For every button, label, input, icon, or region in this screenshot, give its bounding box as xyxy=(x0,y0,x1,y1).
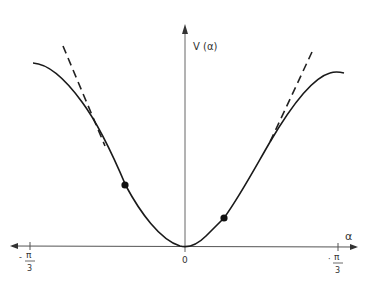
x-axis-right-arrow-icon xyxy=(350,244,358,250)
svg-text:·: · xyxy=(328,255,331,264)
origin-label: 0 xyxy=(182,255,188,265)
marker-point-left xyxy=(121,181,128,188)
svg-text:3: 3 xyxy=(335,266,340,275)
marker-point-right xyxy=(220,214,227,221)
dashed-line-left xyxy=(63,46,105,146)
x-axis-left-arrow-icon xyxy=(10,243,18,249)
svg-text:π: π xyxy=(334,252,340,262)
y-axis xyxy=(182,24,188,252)
y-axis-label: V (α) xyxy=(193,41,218,52)
potential-curve xyxy=(33,63,344,247)
y-axis-arrow-icon xyxy=(182,24,188,34)
svg-text:π: π xyxy=(26,250,32,260)
tick-label-right: · π 3 xyxy=(328,252,343,275)
svg-text:-: - xyxy=(19,253,22,262)
tick-label-left: - π 3 xyxy=(19,250,35,273)
x-axis-label: α xyxy=(345,230,352,243)
potential-diagram: V (α) α 0 - π 3 · π 3 xyxy=(0,0,365,286)
dashed-line-right xyxy=(270,52,312,142)
svg-text:3: 3 xyxy=(27,264,32,273)
